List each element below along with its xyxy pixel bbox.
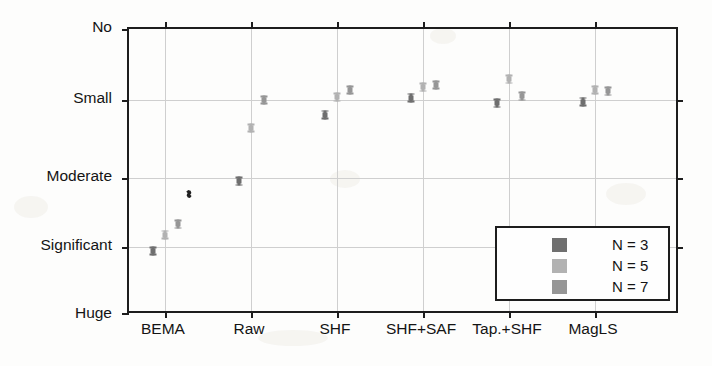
x-tick-label-raw: Raw [233, 320, 264, 338]
legend[interactable]: N = 3 N = 5 N = 7 [495, 226, 670, 301]
data-point-n3-magls [580, 97, 587, 106]
y-tick-label-no: No [92, 18, 112, 36]
gridline-horizontal [129, 178, 676, 179]
legend-row: N = 7 [497, 276, 668, 297]
y-tick-label-small: Small [73, 89, 112, 107]
data-point-n7-magls [605, 87, 612, 96]
legend-swatch-n7 [552, 280, 567, 294]
y-axis-labels: No Small Moderate Significant Huge [0, 0, 120, 366]
legend-label-n7: N = 7 [612, 279, 648, 294]
figure-canvas: No Small Moderate Significant Huge BEMA … [0, 0, 712, 366]
ink-speck-mark [185, 185, 193, 194]
y-tick-mark [122, 29, 129, 31]
data-point-n5-shf [334, 93, 341, 102]
data-point-n7-shf-saf [433, 81, 440, 90]
data-point-n3-bema [150, 246, 157, 255]
legend-label-n5: N = 5 [612, 258, 648, 273]
data-point-n5-tap-shf [506, 75, 513, 84]
x-tick-mark [423, 311, 425, 318]
x-tick-mark-top [423, 22, 425, 29]
x-tick-label-tap-shf: Tap.+SHF [472, 320, 541, 338]
y-tick-mark-right [676, 247, 683, 249]
x-tick-mark-top [595, 22, 597, 29]
y-tick-mark-right [676, 100, 683, 102]
gridline-vertical [165, 29, 166, 311]
gridline-horizontal [129, 100, 676, 101]
data-point-n7-shf [347, 86, 354, 95]
data-point-n3-shf [322, 110, 329, 119]
data-point-n7-raw [261, 96, 268, 105]
x-tick-label-bema: BEMA [141, 320, 185, 338]
y-tick-label-significant: Significant [40, 236, 112, 254]
gridline-vertical [251, 29, 252, 311]
y-tick-mark-right [676, 178, 683, 180]
scan-artifact [258, 330, 328, 346]
data-point-n3-shf-saf [408, 93, 415, 102]
x-tick-mark [251, 311, 253, 318]
legend-swatch-n3 [552, 238, 567, 252]
legend-row: N = 5 [497, 255, 668, 276]
x-tick-mark-top [337, 22, 339, 29]
x-tick-label-shf-saf: SHF+SAF [386, 320, 456, 338]
x-tick-mark [595, 311, 597, 318]
x-tick-mark-top [251, 22, 253, 29]
data-point-n5-raw [248, 124, 255, 133]
legend-label-n3: N = 3 [612, 237, 648, 252]
x-tick-mark-top [165, 22, 167, 29]
y-tick-mark [122, 178, 129, 180]
y-tick-label-moderate: Moderate [47, 167, 112, 185]
x-tick-mark [509, 311, 511, 318]
x-tick-mark-top [509, 22, 511, 29]
data-point-n5-magls [592, 86, 599, 95]
data-point-n5-bema [162, 230, 169, 239]
legend-swatch-n5 [552, 259, 567, 273]
x-tick-mark [165, 311, 167, 318]
y-tick-mark [122, 100, 129, 102]
data-point-n3-tap-shf [494, 99, 501, 108]
x-tick-mark [337, 311, 339, 318]
y-tick-mark [122, 313, 129, 315]
y-tick-mark [122, 247, 129, 249]
data-point-n7-bema [175, 220, 182, 229]
data-point-n7-tap-shf [519, 92, 526, 101]
legend-row: N = 3 [497, 234, 668, 255]
data-point-n3-raw [236, 177, 243, 186]
gridline-vertical [423, 29, 424, 311]
x-tick-label-shf: SHF [320, 320, 351, 338]
data-point-n5-shf-saf [420, 83, 427, 92]
x-tick-label-magls: MagLS [568, 320, 617, 338]
gridline-vertical [337, 29, 338, 311]
y-tick-label-huge: Huge [75, 304, 112, 322]
